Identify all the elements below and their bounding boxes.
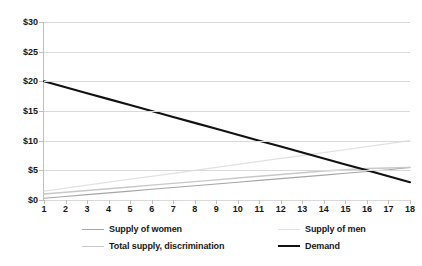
y-axis-tick (39, 111, 43, 112)
y-axis-tick-label: $5 (0, 165, 38, 175)
x-axis-tick (367, 200, 368, 204)
legend-item[interactable]: Total supply, discrimination (82, 241, 224, 251)
legend-swatch-icon (82, 229, 104, 230)
legend-item[interactable]: Supply of men (278, 224, 366, 234)
legend-label: Total supply, discrimination (109, 241, 224, 251)
legend-item[interactable]: Demand (278, 241, 340, 251)
grid-line (44, 141, 410, 142)
x-axis-tick-label: 6 (149, 204, 154, 214)
y-axis-tick-label: $10 (0, 136, 38, 146)
y-axis-tick (39, 141, 43, 142)
x-axis-tick-label: 2 (63, 204, 68, 214)
x-axis-tick (87, 200, 88, 204)
legend-item[interactable]: Supply of women (82, 224, 182, 234)
x-axis-tick-label: 12 (276, 204, 286, 214)
y-axis-tick-label: $20 (0, 76, 38, 86)
y-axis-tick (39, 200, 43, 201)
grid-line (44, 111, 410, 112)
x-axis-tick (345, 200, 346, 204)
x-axis-tick (238, 200, 239, 204)
x-axis-tick (152, 200, 153, 204)
x-axis-tick (281, 200, 282, 204)
y-axis-tick-label: $15 (0, 106, 38, 116)
x-axis-tick-label: 14 (319, 204, 329, 214)
x-axis-tick-label: 10 (233, 204, 243, 214)
legend-swatch-icon (278, 245, 300, 247)
legend-label: Demand (305, 241, 340, 251)
y-axis-tick (39, 81, 43, 82)
x-axis-tick-label: 17 (383, 204, 393, 214)
x-axis-tick-label: 7 (171, 204, 176, 214)
series-line (44, 81, 410, 182)
grid-line (44, 22, 410, 23)
x-axis-tick-label: 5 (128, 204, 133, 214)
x-axis-tick-label: 3 (85, 204, 90, 214)
plot-area (44, 22, 410, 200)
y-axis-tick-label: $25 (0, 47, 38, 57)
grid-line (44, 170, 410, 171)
legend-label: Supply of women (109, 224, 182, 234)
x-axis-tick-label: 8 (192, 204, 197, 214)
y-axis-tick-label: $0 (0, 195, 38, 205)
y-axis-tick (39, 22, 43, 23)
x-axis-tick (302, 200, 303, 204)
x-axis-tick (388, 200, 389, 204)
x-axis-tick (410, 200, 411, 204)
y-axis-tick (39, 170, 43, 171)
x-axis-tick-label: 16 (362, 204, 372, 214)
x-axis-tick (216, 200, 217, 204)
y-axis-tick-label: $30 (0, 17, 38, 27)
y-axis-tick (39, 52, 43, 53)
x-axis-tick-label: 9 (214, 204, 219, 214)
x-axis-tick (66, 200, 67, 204)
legend-swatch-icon (82, 246, 104, 247)
x-axis-tick (259, 200, 260, 204)
x-axis-tick (324, 200, 325, 204)
supply-demand-line-chart: $0$5$10$15$20$25$30 12345678910111213141… (0, 0, 422, 266)
x-axis-tick-label: 13 (297, 204, 307, 214)
grid-line (44, 200, 410, 201)
chart-legend: Supply of womenSupply of menTotal supply… (0, 222, 422, 266)
x-axis-tick (130, 200, 131, 204)
x-axis-tick (44, 200, 45, 204)
x-axis-tick (173, 200, 174, 204)
x-axis-tick-label: 4 (106, 204, 111, 214)
x-axis-tick-label: 15 (340, 204, 350, 214)
legend-label: Supply of men (305, 224, 366, 234)
grid-line (44, 81, 410, 82)
x-axis-tick (109, 200, 110, 204)
legend-swatch-icon (278, 229, 300, 230)
grid-line (44, 52, 410, 53)
x-axis-tick (195, 200, 196, 204)
x-axis-tick-label: 18 (405, 204, 415, 214)
x-axis-tick-label: 1 (41, 204, 46, 214)
x-axis-tick-label: 11 (255, 204, 265, 214)
series-line (44, 167, 410, 198)
series-line (44, 167, 410, 194)
